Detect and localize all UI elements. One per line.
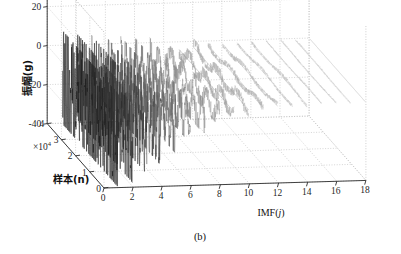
x-axis-title-text: IMF(j) xyxy=(257,207,284,219)
z-tick-label: 3 xyxy=(54,135,59,145)
y-tick-label: 0 xyxy=(36,41,41,51)
z-axis-multiplier-base: ×10 xyxy=(33,142,48,152)
x-tick-label: 8 xyxy=(217,189,222,199)
x-tick-label: 14 xyxy=(302,187,312,197)
y-axis-title: 振幅(g) xyxy=(21,60,33,96)
y-tick-label: 20 xyxy=(32,2,42,12)
z-axis-title-text: 样本(n) xyxy=(53,173,89,185)
x-tick-label: 4 xyxy=(159,191,164,201)
x-tick-label: 16 xyxy=(331,186,341,196)
x-axis-title: IMF(j) xyxy=(257,207,284,219)
x-tick-label: 12 xyxy=(273,188,283,198)
z-tick-label: 2 xyxy=(68,151,73,161)
figure-3d-waterfall-plot: -40-200204001234024681012141618 振幅(g) 样本… xyxy=(0,0,401,254)
y-axis-title-text: 振幅(g) xyxy=(21,60,33,96)
plot-canvas: -40-200204001234024681012141618 振幅(g) 样本… xyxy=(0,0,401,254)
x-axis-title-base: IMF( xyxy=(257,207,279,219)
figure-caption: (b) xyxy=(194,231,207,243)
x-tick-label: 18 xyxy=(360,185,370,195)
plot-background xyxy=(0,0,401,254)
x-tick-label: 6 xyxy=(188,190,193,200)
x-tick-label: 0 xyxy=(101,193,106,203)
z-axis-title: 样本(n) xyxy=(53,173,89,185)
x-tick-label: 2 xyxy=(130,192,135,202)
x-tick-label: 10 xyxy=(244,188,254,198)
z-tick-label: 4 xyxy=(39,119,44,129)
